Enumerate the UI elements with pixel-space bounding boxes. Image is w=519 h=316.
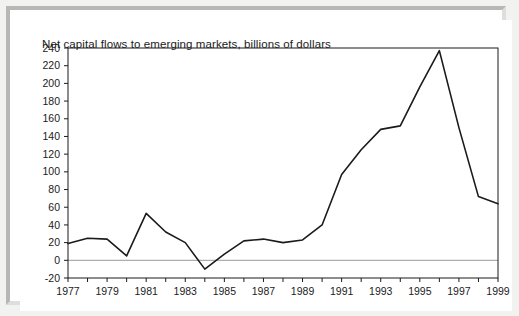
y-tick-label: -20 [45,272,60,284]
y-tick-label: 0 [54,254,60,266]
y-tick-label: 180 [42,95,60,107]
y-tick-label: 120 [42,148,60,160]
y-tick-label: 20 [48,236,60,248]
x-tick-label: 1977 [56,285,80,297]
x-tick-label: 1999 [486,285,510,297]
y-tick-label: 200 [42,77,60,89]
x-tick-label: 1985 [213,285,237,297]
y-tick-label: 160 [42,112,60,124]
x-tick-label: 1987 [252,285,276,297]
y-tick-label: 80 [48,183,60,195]
chart-panel: Net capital flows to emerging markets, b… [20,20,512,311]
y-tick-label: 240 [42,42,60,54]
data-series-line [68,51,498,270]
y-axis-ticks: 240220200180160140120100806040200-20 [42,42,68,284]
x-tick-label: 1993 [369,285,393,297]
x-tick-label: 1991 [330,285,354,297]
y-tick-label: 220 [42,59,60,71]
y-tick-label: 100 [42,165,60,177]
x-tick-label: 1989 [291,285,315,297]
y-tick-label: 60 [48,201,60,213]
y-tick-label: 40 [48,219,60,231]
line-chart-svg: 240220200180160140120100806040200-20 197… [20,20,512,311]
screenshot-root: Net capital flows to emerging markets, b… [0,0,519,316]
y-tick-label: 140 [42,130,60,142]
figure-frame: Net capital flows to emerging markets, b… [6,6,506,305]
x-tick-label: 1981 [135,285,159,297]
plot-area: 240220200180160140120100806040200-20 197… [20,20,512,311]
x-tick-label: 1979 [95,285,119,297]
x-axis-ticks: 1977197919811983198519871989199119931995… [56,278,510,297]
x-tick-label: 1997 [447,285,471,297]
x-tick-label: 1995 [408,285,432,297]
x-tick-label: 1983 [174,285,198,297]
